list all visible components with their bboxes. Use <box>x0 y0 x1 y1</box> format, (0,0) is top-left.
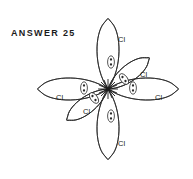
molecular-orbital-figure: ANSWER 25 Cl Cl Cl Cl Cl Cl <box>0 0 193 179</box>
cl-label-lower-left: Cl <box>83 108 90 116</box>
electron-pair-upper-right <box>118 72 131 86</box>
answer-label: ANSWER 25 <box>11 29 76 38</box>
electron-pair-right <box>130 82 137 94</box>
electron-pair-lower-left <box>88 91 101 105</box>
cl-label-bottom: Cl <box>118 140 125 148</box>
cl-label-right: Cl <box>155 94 162 102</box>
electron-pair-bottom <box>108 110 115 122</box>
cl-label-left: Cl <box>56 94 63 102</box>
central-atom-node <box>98 79 118 99</box>
cl-label-upper-right: Cl <box>140 71 147 79</box>
cl-label-top: Cl <box>118 36 125 44</box>
orbital-diagram-svg <box>0 0 193 179</box>
electron-pair-left <box>81 82 88 94</box>
electron-pair-top <box>108 56 115 68</box>
